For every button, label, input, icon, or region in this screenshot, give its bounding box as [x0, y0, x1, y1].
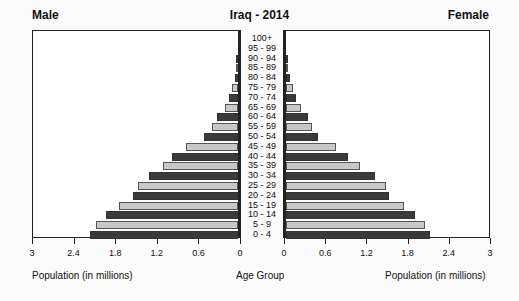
age-group-label: 60 - 64	[241, 112, 283, 122]
female-bar	[286, 202, 404, 210]
age-group-label: 50 - 54	[241, 132, 283, 142]
x-tick	[115, 238, 116, 244]
age-group-label: 100+	[241, 34, 283, 44]
female-bar	[286, 123, 312, 131]
male-bar	[225, 104, 238, 112]
age-group-label: 30 - 34	[241, 171, 283, 181]
male-bar	[232, 84, 238, 92]
male-bar	[96, 221, 238, 229]
age-group-label: 40 - 44	[241, 152, 283, 162]
age-group-label: 25 - 29	[241, 181, 283, 191]
female-bar	[286, 55, 288, 63]
x-tick	[32, 238, 33, 244]
age-group-label: 75 - 79	[241, 83, 283, 93]
x-tick-label: 0.6	[183, 248, 213, 258]
female-bar	[286, 162, 360, 170]
x-tick	[325, 238, 326, 244]
chart-title-female: Female	[448, 8, 489, 22]
male-bar	[163, 162, 238, 170]
female-bar	[286, 211, 415, 219]
age-group-label: 90 - 94	[241, 54, 283, 64]
age-group-label: 55 - 59	[241, 122, 283, 132]
male-bar	[236, 64, 238, 72]
age-group-label: 65 - 69	[241, 103, 283, 113]
x-axis-label-right: Population (in millions)	[385, 270, 486, 281]
age-group-label: 95 - 99	[241, 44, 283, 54]
male-bar	[172, 153, 238, 161]
chart-title: Iraq - 2014	[0, 8, 519, 22]
male-plot-area	[32, 30, 241, 238]
age-group-label: 20 - 24	[241, 191, 283, 201]
x-tick-label: 3	[17, 248, 47, 258]
female-bar	[286, 64, 288, 72]
x-tick-label: 1.2	[351, 248, 381, 258]
male-bar	[212, 123, 238, 131]
x-tick-label: 1.2	[142, 248, 172, 258]
male-bar	[229, 94, 238, 102]
female-bar	[286, 221, 425, 229]
x-tick	[408, 238, 409, 244]
x-tick-label: 3	[475, 248, 505, 258]
female-bar	[286, 104, 301, 112]
female-bar	[286, 182, 386, 190]
male-bar	[217, 113, 238, 121]
x-tick-label: 1.8	[393, 248, 423, 258]
x-axis-label-center: Age Group	[236, 270, 284, 281]
female-bar	[286, 143, 336, 151]
male-bar	[235, 74, 238, 82]
x-tick	[240, 238, 241, 244]
male-bar	[149, 172, 238, 180]
male-bar	[106, 211, 238, 219]
x-tick-label: 0	[225, 248, 255, 258]
male-bar	[90, 231, 238, 239]
female-bar	[286, 153, 348, 161]
female-bar	[286, 172, 375, 180]
x-tick	[449, 238, 450, 244]
x-tick-label: 2.4	[59, 248, 89, 258]
x-tick-label: 1.8	[100, 248, 130, 258]
x-tick	[198, 238, 199, 244]
female-bar	[286, 192, 389, 200]
age-group-label: 5 - 9	[241, 220, 283, 230]
age-group-label: 70 - 74	[241, 93, 283, 103]
age-group-label: 0 - 4	[241, 230, 283, 240]
female-bar	[286, 133, 318, 141]
x-tick	[490, 238, 491, 244]
x-tick	[366, 238, 367, 244]
x-tick-label: 0.6	[310, 248, 340, 258]
x-tick-label: 2.4	[434, 248, 464, 258]
male-bar	[236, 55, 238, 63]
female-plot-area	[283, 30, 490, 238]
x-tick	[74, 238, 75, 244]
age-group-label: 45 - 49	[241, 142, 283, 152]
age-group-label: 80 - 84	[241, 73, 283, 83]
male-bar	[138, 182, 238, 190]
age-group-label: 35 - 39	[241, 161, 283, 171]
age-group-label: 15 - 19	[241, 201, 283, 211]
x-axis-label-left: Population (in millions)	[32, 270, 133, 281]
male-bar	[119, 202, 238, 210]
female-bar	[286, 74, 290, 82]
x-tick	[284, 238, 285, 244]
female-bar	[286, 84, 293, 92]
male-bar	[133, 192, 238, 200]
male-bar	[204, 133, 238, 141]
x-tick-label: 0	[269, 248, 299, 258]
age-group-label: 85 - 89	[241, 63, 283, 73]
male-bar	[186, 143, 238, 151]
female-bar	[286, 94, 296, 102]
female-bar	[286, 113, 308, 121]
x-tick	[157, 238, 158, 244]
age-group-label: 10 - 14	[241, 210, 283, 220]
